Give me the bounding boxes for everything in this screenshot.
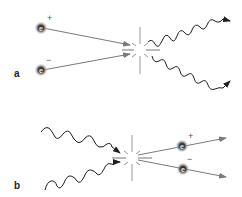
feynman-diagram: e e bbox=[0, 0, 242, 197]
collision-burst-icon bbox=[112, 135, 152, 181]
positron-particle: e bbox=[35, 22, 48, 35]
panel-a: e e bbox=[35, 19, 231, 90]
photon-wave-in-lower bbox=[45, 162, 120, 190]
electron-particle: e bbox=[177, 163, 190, 176]
electron-particle: e bbox=[35, 64, 48, 77]
photon-wave-in-upper bbox=[41, 128, 120, 153]
photon-wave-up bbox=[148, 19, 230, 46]
panel-label-b: b bbox=[14, 180, 20, 191]
collision-burst-icon bbox=[122, 27, 160, 74]
positron-track bbox=[43, 28, 130, 45]
positron-particle: e bbox=[176, 140, 189, 153]
positive-charge-label: + bbox=[47, 14, 52, 23]
photon-wave-down bbox=[152, 56, 230, 90]
svg-text:e: e bbox=[39, 25, 43, 32]
electron-track bbox=[43, 54, 130, 70]
svg-text:e: e bbox=[180, 143, 184, 150]
negative-charge-label: − bbox=[187, 155, 192, 164]
panel-b: e e bbox=[41, 128, 226, 190]
positive-charge-label: + bbox=[188, 132, 193, 141]
panel-label-a: a bbox=[14, 68, 20, 79]
svg-text:e: e bbox=[39, 67, 43, 74]
negative-charge-label: − bbox=[46, 56, 51, 65]
svg-text:e: e bbox=[181, 166, 185, 173]
